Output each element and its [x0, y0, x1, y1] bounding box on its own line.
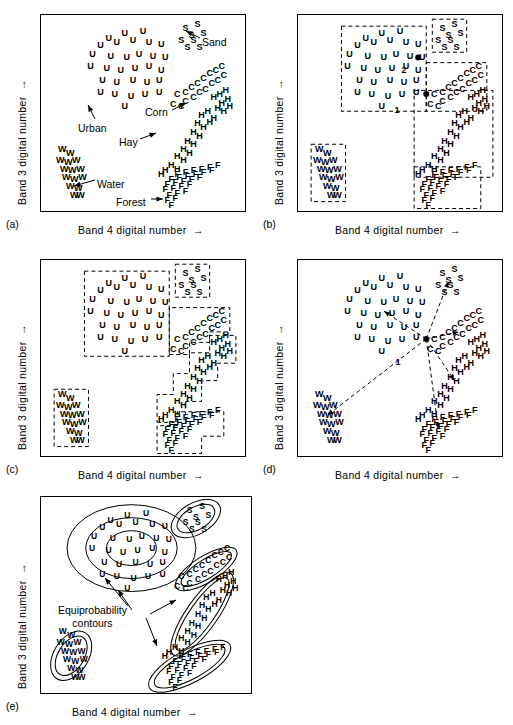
- data-point-h: H: [201, 613, 207, 623]
- data-point-h: H: [162, 651, 168, 661]
- data-point-u: U: [362, 33, 369, 43]
- data-point-h: H: [186, 148, 193, 158]
- data-point-h: H: [191, 630, 197, 640]
- data-point-u: U: [132, 63, 139, 73]
- data-point-f: F: [472, 160, 478, 170]
- unknown-pixel-1: [423, 336, 429, 342]
- data-point-h: H: [212, 599, 218, 609]
- data-point-u: U: [118, 65, 125, 75]
- data-point-u: U: [162, 297, 169, 307]
- data-point-u: U: [149, 543, 155, 553]
- data-point-u: U: [126, 534, 132, 544]
- data-point-u: U: [111, 89, 118, 99]
- data-point-c: C: [182, 583, 188, 593]
- data-point-u: U: [370, 322, 377, 332]
- data-point-u: U: [130, 573, 136, 583]
- data-point-u: U: [140, 271, 147, 281]
- data-point-u: U: [122, 101, 129, 111]
- data-point-u: U: [364, 296, 371, 306]
- data-point-c: C: [170, 344, 177, 354]
- data-point-w: W: [76, 190, 85, 200]
- data-point-c: C: [214, 560, 220, 570]
- data-point-u: U: [89, 543, 95, 553]
- callout-equiprobability: Equiprobability contours: [58, 604, 127, 630]
- data-point-u: U: [368, 89, 375, 99]
- data-point-u: U: [379, 273, 386, 283]
- data-point-u: U: [379, 346, 386, 356]
- data-point-f: F: [202, 654, 207, 664]
- data-point-u: U: [158, 65, 165, 75]
- data-point-u: U: [387, 35, 394, 45]
- data-point-f: F: [454, 417, 460, 427]
- data-point-u: U: [124, 510, 130, 520]
- data-point-u: U: [162, 547, 168, 557]
- data-point-f: F: [214, 647, 219, 657]
- data-point-c: C: [221, 70, 228, 80]
- data-point-u: U: [146, 37, 153, 47]
- data-point-w: W: [78, 172, 87, 182]
- data-point-f: F: [183, 431, 189, 441]
- leader-contour-hay: [150, 600, 176, 614]
- data-point-h: H: [178, 633, 184, 643]
- data-point-w: W: [76, 435, 85, 445]
- data-point-u: U: [413, 320, 420, 330]
- panel-d-graphics: UUUUUUUUUUUUUUUUUUUUUUUUUUUUUUUSSSSSSSSC…: [257, 245, 513, 490]
- panel-b: Band 3 digital number → (b) Band 4 digit…: [257, 0, 513, 245]
- data-point-u: U: [356, 320, 363, 330]
- data-point-u: U: [97, 332, 104, 342]
- data-point-u: U: [113, 282, 120, 292]
- data-point-u: U: [407, 296, 414, 306]
- data-point-u: U: [144, 322, 151, 332]
- data-point-u: U: [142, 89, 149, 99]
- data-point-f: F: [197, 172, 203, 182]
- data-point-u: U: [160, 557, 166, 567]
- data-point-u: U: [143, 508, 149, 518]
- data-point-u: U: [360, 308, 367, 318]
- data-point-u: U: [381, 52, 388, 62]
- data-point-u: U: [370, 282, 377, 292]
- callout-sand: Sand: [202, 36, 227, 48]
- data-point-u: U: [132, 308, 139, 318]
- data-point-u: U: [389, 63, 396, 73]
- data-point-u: U: [101, 557, 107, 567]
- callout-water: Water: [97, 178, 125, 190]
- data-point-u: U: [128, 91, 135, 101]
- data-point-u: U: [379, 28, 386, 38]
- data-point-h: H: [195, 609, 201, 619]
- data-point-s: S: [184, 287, 190, 297]
- data-point-u: U: [413, 75, 420, 85]
- data-point-h: H: [227, 101, 234, 111]
- panel-c: Band 3 digital number → (c) Band 4 digit…: [0, 245, 256, 490]
- data-point-h: H: [453, 131, 460, 141]
- data-point-u: U: [385, 336, 392, 346]
- data-point-f: F: [440, 186, 446, 196]
- data-point-u: U: [393, 294, 400, 304]
- callout-forest: Forest: [116, 196, 146, 208]
- data-point-u: U: [97, 40, 104, 50]
- data-point-u: U: [156, 75, 163, 85]
- data-point-u: U: [387, 75, 394, 85]
- data-point-u: U: [113, 322, 120, 332]
- data-point-s: S: [454, 287, 460, 297]
- data-point-u: U: [387, 280, 394, 290]
- data-point-s: S: [199, 501, 205, 511]
- data-point-u: U: [403, 282, 410, 292]
- data-point-f: F: [215, 160, 221, 170]
- data-point-u: U: [89, 49, 96, 59]
- data-point-h: H: [415, 414, 422, 424]
- data-point-s: S: [454, 42, 460, 52]
- data-point-w: W: [335, 417, 344, 427]
- leader-urban: [88, 105, 95, 119]
- data-point-f: F: [197, 417, 203, 427]
- data-point-u: U: [156, 320, 163, 330]
- unknown-pixel-1-label-d: 1: [395, 358, 400, 367]
- data-point-c: C: [478, 315, 485, 325]
- data-point-s: S: [195, 517, 201, 527]
- panel-c-graphics: UUUUUUUUUUUUUUUUUUUUUUUUUUUUUUUSSSSSSSSC…: [0, 245, 256, 490]
- data-point-h: H: [484, 346, 491, 356]
- data-point-u: U: [407, 51, 414, 61]
- data-point-u: U: [120, 547, 126, 557]
- data-point-u: U: [99, 75, 106, 85]
- data-point-c: C: [201, 569, 207, 579]
- data-point-u: U: [156, 87, 163, 97]
